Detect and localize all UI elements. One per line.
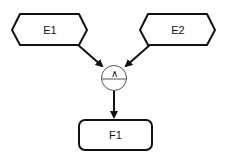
node-f1-label: F1 <box>109 129 122 141</box>
node-f1[interactable]: F1 <box>79 120 152 150</box>
edge-e2-gate <box>126 44 151 66</box>
diagram-canvas: E1 E2 ∧ F1 <box>0 0 229 159</box>
node-e2[interactable]: E2 <box>140 14 215 45</box>
and-gate-symbol: ∧ <box>111 68 118 79</box>
node-e2-label: E2 <box>171 24 184 36</box>
node-e1-label: E1 <box>43 24 56 36</box>
and-gate[interactable]: ∧ <box>102 66 127 91</box>
edge-e1-gate <box>77 44 102 66</box>
node-e1[interactable]: E1 <box>12 14 87 45</box>
